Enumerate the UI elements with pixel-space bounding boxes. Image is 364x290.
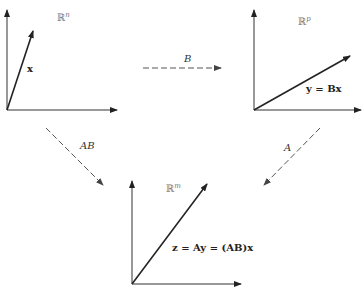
vector-y-label: y = Bx [305,83,343,94]
intermediate-space-panel: ℝp y = Bx [254,10,361,110]
map-AB: AB [46,128,103,185]
map-B-label: B [183,53,191,64]
domain-space-label: ℝn [57,11,70,23]
map-B: B [143,53,221,68]
domain-space-panel: ℝn x [7,10,117,110]
composition-diagram: ℝn x ℝp y = Bx ℝm z = Ay = (AB)x B AB A [0,0,364,290]
dashed-arrow-AB [46,128,103,185]
map-AB-label: AB [79,140,95,151]
codomain-space-label: ℝm [166,182,181,194]
vector-z-label: z = Ay = (AB)x [172,242,254,253]
codomain-space-panel: ℝm z = Ay = (AB)x [132,181,254,284]
map-A-label: A [283,142,291,153]
vector-z-arrow [132,184,207,284]
map-A: A [264,128,320,185]
intermediate-space-label: ℝp [298,15,311,27]
dashed-arrow-A [264,128,320,185]
vector-x-label: x [27,63,34,74]
